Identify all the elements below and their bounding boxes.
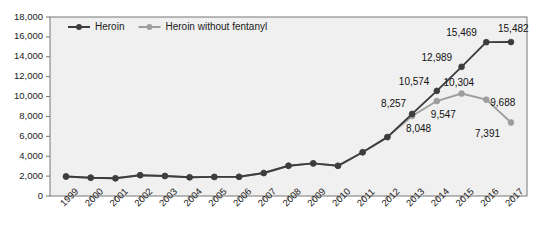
y-tick-label: 8,000 [19,110,43,121]
data-label: 10,304 [444,77,475,88]
data-label: 8,257 [381,98,406,109]
legend-label: Heroin without fentanyl [165,21,267,32]
y-axis-ticks [46,17,50,196]
y-tick-label: 2,000 [19,170,43,181]
heroin-without-fentanyl-point [434,98,440,104]
heroin-point [483,39,489,45]
data-label: 15,482 [498,23,529,34]
legend-marker-icon [147,24,153,30]
data-label: 8,048 [406,123,431,134]
heroin-point [459,64,465,70]
heroin-point [236,174,242,180]
y-tick-label: 10,000 [14,90,43,101]
y-tick-label: 16,000 [14,30,43,41]
heroin-point [162,173,168,179]
heroin-point [508,39,514,45]
heroin-without-fentanyl-point [508,120,514,126]
legend-marker-icon [76,24,82,30]
heroin-point [88,175,94,181]
y-tick-label: 14,000 [14,50,43,61]
data-label: 12,989 [422,52,453,63]
heroin-without-fentanyl-point [483,97,489,103]
line-chart: 02,0004,0006,0008,00010,00012,00014,0001… [0,0,544,239]
y-tick-label: 18,000 [14,11,43,22]
heroin-point [409,111,415,117]
data-label: 10,574 [399,76,430,87]
data-label: 9,688 [490,97,515,108]
data-label: 15,469 [446,27,477,38]
heroin-without-fentanyl-point [459,91,465,97]
heroin-point [286,163,292,169]
heroin-point [187,174,193,180]
chart-container: 02,0004,0006,0008,00010,00012,00014,0001… [0,0,544,239]
heroin-point [384,134,390,140]
heroin-point [335,163,341,169]
legend-label: Heroin [95,21,124,32]
y-tick-label: 4,000 [19,150,43,161]
plot-area-background [50,17,527,196]
heroin-point [434,88,440,94]
heroin-point [113,175,119,181]
y-tick-label: 0 [38,190,43,201]
y-axis-labels: 02,0004,0006,0008,00010,00012,00014,0001… [14,11,43,201]
heroin-point [261,170,267,176]
data-label: 9,547 [431,109,456,120]
heroin-point [63,174,69,180]
y-tick-label: 6,000 [19,130,43,141]
heroin-point [137,172,143,178]
data-label: 7,391 [475,128,500,139]
y-tick-label: 12,000 [14,70,43,81]
heroin-point [211,174,217,180]
heroin-point [310,160,316,166]
heroin-point [360,149,366,155]
chart-legend: HeroinHeroin without fentanyl [68,21,267,32]
